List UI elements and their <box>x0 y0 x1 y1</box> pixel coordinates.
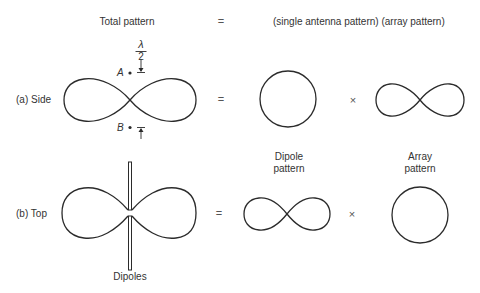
rhs-heading: (single antenna pattern) (array pattern) <box>273 16 445 28</box>
top-row-label: (b) Top <box>16 208 47 220</box>
array-pattern-label-line2: pattern <box>404 163 435 175</box>
side-row-label: (a) Side <box>16 94 51 106</box>
lambda-symbol: λ <box>138 38 143 50</box>
total-pattern-heading: Total pattern <box>99 16 154 28</box>
top-array-pattern-circle <box>392 187 448 243</box>
side-total-pattern-figure-eight <box>64 79 196 122</box>
point-b-label: B <box>117 122 124 134</box>
top-equals-sign: = <box>216 207 222 219</box>
dipole-pattern-label-line1: Dipole <box>275 151 303 163</box>
dipole-pattern-label-line2: pattern <box>273 163 304 175</box>
point-a-dot <box>128 71 131 74</box>
diagram-canvas <box>0 0 480 293</box>
side-times-sign: × <box>350 94 356 106</box>
point-a-label: A <box>117 67 124 79</box>
point-b-dot <box>128 126 131 129</box>
half-wavelength-annotation <box>128 52 146 140</box>
top-dipole-pattern-figure-eight <box>244 198 330 230</box>
dipoles-label: Dipoles <box>113 271 146 283</box>
side-equals-sign: = <box>218 93 224 105</box>
top-times-sign: × <box>349 208 355 220</box>
side-single-antenna-circle <box>260 71 316 127</box>
array-pattern-label-line1: Array <box>408 151 432 163</box>
side-array-pattern-figure-eight <box>376 84 464 116</box>
header-equals-sign: = <box>218 15 224 27</box>
dipole-rods <box>129 162 132 270</box>
lambda-denominator: 2 <box>138 51 144 63</box>
